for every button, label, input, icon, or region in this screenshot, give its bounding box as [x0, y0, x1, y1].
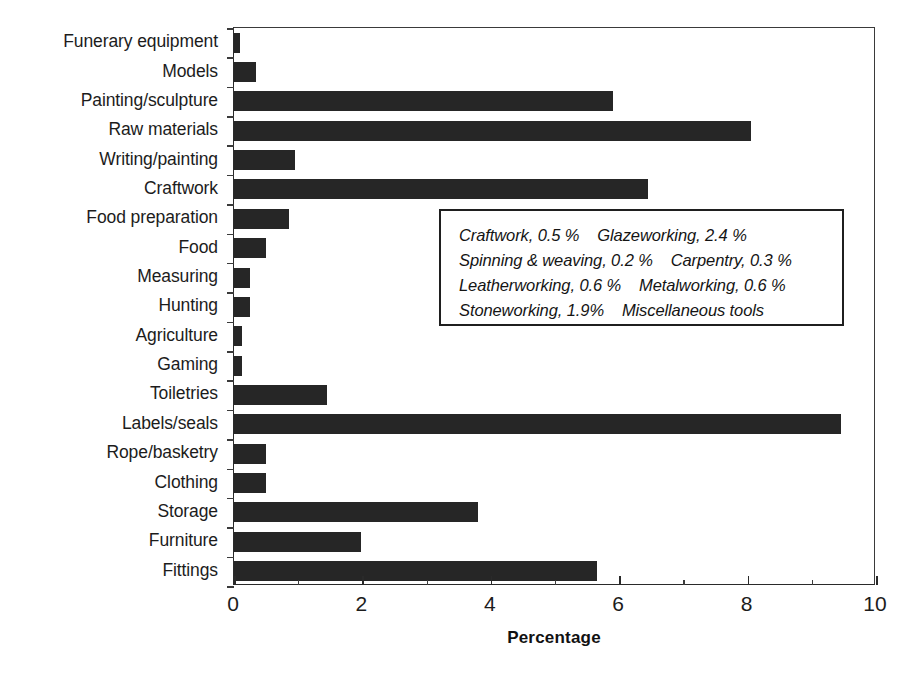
y-tick-mark — [227, 469, 234, 471]
y-tick-mark — [227, 586, 234, 588]
bar-row — [234, 57, 876, 86]
y-tick-mark — [227, 116, 234, 118]
y-axis-label: Agriculture — [0, 321, 226, 350]
x-tick-label: 2 — [356, 592, 368, 616]
bar — [234, 473, 266, 493]
bar-row — [234, 145, 876, 174]
bar-row — [234, 28, 876, 57]
y-axis-label: Fittings — [0, 555, 226, 584]
bar — [234, 297, 250, 317]
legend-line: Craftwork, 0.5 % Glazeworking, 2.4 % — [459, 223, 842, 248]
bar — [234, 532, 361, 552]
y-tick-mark — [227, 263, 234, 265]
y-axis-label: Funerary equipment — [0, 27, 226, 56]
x-tick-minor — [555, 580, 556, 585]
y-axis-label: Labels/seals — [0, 409, 226, 438]
y-axis-label: Gaming — [0, 350, 226, 379]
y-tick-mark — [227, 145, 234, 147]
y-tick-mark — [227, 557, 234, 559]
bar-row — [234, 175, 876, 204]
bar-row — [234, 380, 876, 409]
x-tick-label: 0 — [227, 592, 239, 616]
y-tick-mark — [227, 234, 234, 236]
bar-row — [234, 87, 876, 116]
y-axis-label: Food — [0, 233, 226, 262]
bar-row — [234, 439, 876, 468]
bar — [234, 385, 327, 405]
x-tick-minor — [298, 580, 299, 585]
y-tick-mark — [227, 498, 234, 500]
bar — [234, 238, 266, 258]
y-tick-mark — [227, 28, 234, 30]
x-tick-label: 8 — [741, 592, 753, 616]
annotation-legend-box: Craftwork, 0.5 % Glazeworking, 2.4 %Spin… — [439, 209, 844, 326]
x-tick-minor — [683, 580, 684, 585]
x-tick-label: 10 — [863, 592, 886, 616]
y-tick-mark — [227, 410, 234, 412]
bar-row — [234, 468, 876, 497]
legend-line: Spinning & weaving, 0.2 % Carpentry, 0.3… — [459, 248, 842, 273]
y-axis-label: Measuring — [0, 262, 226, 291]
y-axis-label: Storage — [0, 497, 226, 526]
y-axis-label: Toiletries — [0, 379, 226, 408]
x-tick-major — [234, 576, 236, 585]
legend-line: Stoneworking, 1.9% Miscellaneous tools — [459, 298, 842, 323]
bar — [234, 91, 613, 111]
bar-row — [234, 351, 876, 380]
y-axis-label: Models — [0, 56, 226, 85]
y-axis-label: Raw materials — [0, 115, 226, 144]
y-tick-mark — [227, 292, 234, 294]
y-axis-label: Painting/sculpture — [0, 86, 226, 115]
x-tick-major — [491, 576, 493, 585]
y-tick-mark — [227, 204, 234, 206]
x-tick-minor — [812, 580, 813, 585]
y-axis-label: Hunting — [0, 291, 226, 320]
bar-row — [234, 410, 876, 439]
bar — [234, 502, 478, 522]
y-tick-mark — [227, 380, 234, 382]
x-tick-minor — [427, 580, 428, 585]
x-axis-tick-labels: 0246810 — [233, 592, 875, 622]
x-tick-label: 6 — [612, 592, 624, 616]
bar — [234, 444, 266, 464]
x-tick-major — [876, 576, 878, 585]
bar — [234, 356, 242, 376]
y-axis-label: Writing/painting — [0, 144, 226, 173]
y-tick-mark — [227, 439, 234, 441]
x-axis-title: Percentage — [233, 628, 875, 648]
x-tick-label: 4 — [484, 592, 496, 616]
legend-line: Leatherworking, 0.6 % Metalworking, 0.6 … — [459, 273, 842, 298]
y-tick-mark — [227, 527, 234, 529]
y-tick-mark — [227, 57, 234, 59]
y-axis-label: Furniture — [0, 526, 226, 555]
y-tick-mark — [227, 322, 234, 324]
bar-row — [234, 116, 876, 145]
y-tick-mark — [227, 351, 234, 353]
y-tick-mark — [227, 175, 234, 177]
bar-row — [234, 498, 876, 527]
bar — [234, 414, 841, 434]
bar — [234, 150, 295, 170]
y-axis-label: Food preparation — [0, 203, 226, 232]
bar — [234, 33, 240, 53]
y-tick-mark — [227, 87, 234, 89]
bar — [234, 561, 597, 581]
bar — [234, 62, 256, 82]
bar — [234, 121, 751, 141]
x-tick-major — [748, 576, 750, 585]
bar — [234, 326, 242, 346]
x-tick-major — [362, 576, 364, 585]
bar-chart-figure: Funerary equipmentModelsPainting/sculptu… — [0, 0, 900, 684]
y-axis-category-labels: Funerary equipmentModelsPainting/sculptu… — [0, 27, 226, 585]
bar — [234, 179, 648, 199]
y-axis-label: Craftwork — [0, 174, 226, 203]
x-tick-major — [619, 576, 621, 585]
bar-row — [234, 527, 876, 556]
y-axis-label: Rope/basketry — [0, 438, 226, 467]
bar — [234, 268, 250, 288]
bar — [234, 209, 289, 229]
y-axis-label: Clothing — [0, 467, 226, 496]
